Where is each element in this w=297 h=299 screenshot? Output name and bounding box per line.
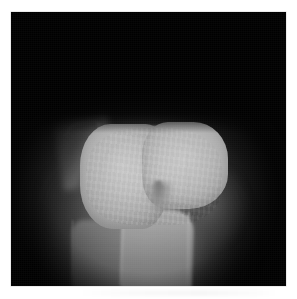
radiograph-figure: Grayscale radiograph showing a bright ro… bbox=[0, 0, 297, 299]
film-grain-texture bbox=[11, 12, 286, 286]
radiograph-image bbox=[11, 12, 286, 286]
margin-footer-smudge bbox=[78, 290, 278, 296]
